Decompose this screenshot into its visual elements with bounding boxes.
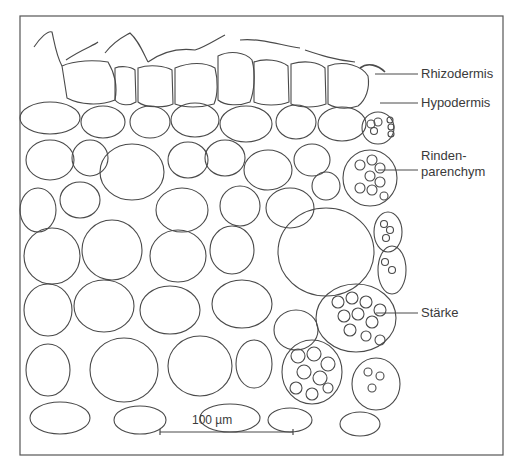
label-hypodermis: Hypodermis — [421, 95, 490, 110]
figure-frame — [20, 16, 503, 455]
label-rhizodermis: Rhizodermis — [421, 66, 493, 81]
label-staerke: Stärke — [421, 305, 459, 320]
scale-bar-label: 100 µm — [192, 413, 232, 427]
cell-drawing — [20, 32, 406, 436]
label-rindenparenchym-line2: parenchym — [421, 164, 485, 179]
label-rindenparenchym-line1: Rinden- — [421, 148, 467, 163]
scale-bar — [160, 429, 293, 435]
